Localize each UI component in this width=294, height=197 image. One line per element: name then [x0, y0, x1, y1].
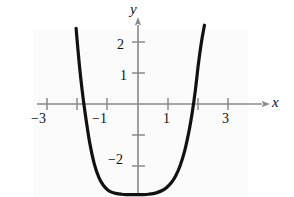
- plotted-curve: [76, 25, 204, 194]
- x-tick-label-plus3: 3: [222, 112, 229, 126]
- y-axis-label: y: [130, 2, 137, 17]
- x-axis-label: x: [272, 95, 279, 110]
- x-tick-label-plus1: 1: [163, 112, 170, 126]
- y-tick-label-plus1: 1: [120, 69, 127, 83]
- y-tick-label-minus2: −2: [108, 153, 123, 167]
- graph-canvas: [0, 0, 294, 197]
- y-tick-label-plus2: 2: [117, 38, 124, 52]
- x-tick-label-minus1: −1: [92, 112, 107, 126]
- graph-figure: y x −3 −1 1 3 2 1 −2: [0, 0, 294, 197]
- x-tick-label-minus3: −3: [31, 112, 46, 126]
